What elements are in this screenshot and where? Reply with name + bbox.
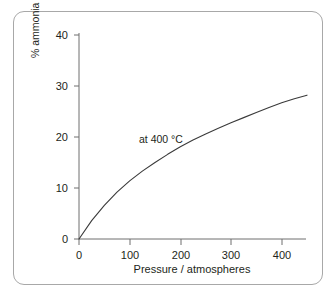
x-tick-label-400: 400 bbox=[268, 250, 296, 261]
y-tick-label-0: 0 bbox=[38, 234, 68, 245]
y-tick-label-30: 30 bbox=[38, 81, 68, 92]
chart-figure: 40 30 20 10 0 0 100 200 300 400 % ammoni… bbox=[0, 0, 336, 299]
x-tick-label-0: 0 bbox=[65, 250, 93, 261]
y-tick-label-20: 20 bbox=[38, 132, 68, 143]
y-tick-label-10: 10 bbox=[38, 183, 68, 194]
chart-panel: 40 30 20 10 0 0 100 200 300 400 bbox=[13, 11, 323, 285]
x-axis-ticks bbox=[79, 239, 282, 245]
y-tick-label-40: 40 bbox=[38, 30, 68, 41]
y-axis-title: % ammonia at equilibrium bbox=[30, 0, 41, 58]
series-annotation-label: at 400 °C bbox=[139, 134, 183, 145]
x-axis-title: Pressure / atmospheres bbox=[78, 264, 306, 275]
x-tick-label-200: 200 bbox=[167, 250, 195, 261]
y-axis-ticks bbox=[74, 35, 79, 239]
x-tick-label-300: 300 bbox=[217, 250, 245, 261]
x-tick-label-100: 100 bbox=[116, 250, 144, 261]
ammonia-equilibrium-curve bbox=[79, 95, 307, 239]
